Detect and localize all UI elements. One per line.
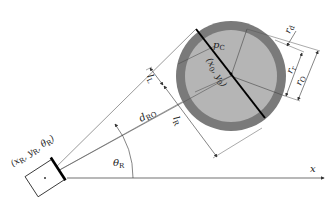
rr-label: rr xyxy=(284,63,298,75)
robot-center xyxy=(44,177,46,179)
diagram-canvas: x θR dRO (xR, yR, θR) pC (x0, y0) lL lR … xyxy=(0,0,332,208)
dim-rr xyxy=(286,53,302,96)
ext-line-lR-bottom xyxy=(213,128,262,158)
lR-label: lR xyxy=(169,115,184,128)
ray-upper xyxy=(45,29,196,178)
distance-label: dRO xyxy=(137,106,159,126)
ext-line-bottom xyxy=(285,96,300,101)
obstacle-center-dot xyxy=(230,73,233,76)
rO-label: rO xyxy=(293,74,308,88)
x-axis-label: x xyxy=(310,163,316,174)
theta-label: θR xyxy=(113,157,125,170)
